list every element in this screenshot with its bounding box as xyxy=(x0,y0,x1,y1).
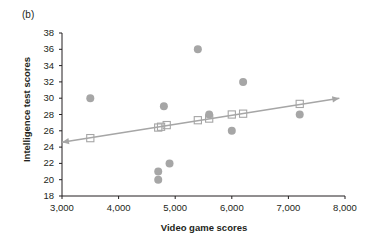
y-axis-tick-label: 36 xyxy=(32,43,54,54)
y-axis-tick-label: 18 xyxy=(32,190,54,201)
x-axis-tick-label: 3,000 xyxy=(42,202,82,213)
observed-points-group xyxy=(86,45,303,183)
x-axis-tick-label: 6,000 xyxy=(212,202,252,213)
x-axis-tick-label: 7,000 xyxy=(268,202,308,213)
trend-line-arrowhead xyxy=(332,96,339,102)
trend-line xyxy=(62,96,339,144)
scatter-plot-figure: (b) Intelligence test scores Video game … xyxy=(0,0,381,242)
y-axis-tick-label: 20 xyxy=(32,174,54,185)
x-axis-tick-label: 4,000 xyxy=(99,202,139,213)
y-axis-tick-label: 34 xyxy=(32,60,54,71)
data-point-observed xyxy=(166,159,174,167)
data-point-observed xyxy=(296,111,304,119)
data-point-observed xyxy=(228,127,236,135)
data-point-observed xyxy=(154,176,162,184)
y-axis-tick-label: 24 xyxy=(32,141,54,152)
data-point-observed xyxy=(86,94,94,102)
x-axis-tick-label: 5,000 xyxy=(155,202,195,213)
data-point-observed xyxy=(160,102,168,110)
data-point-observed xyxy=(154,168,162,176)
data-point-observed xyxy=(194,45,202,53)
x-axis-tick-label: 8,000 xyxy=(325,202,365,213)
data-point-observed xyxy=(239,78,247,86)
trend-line-arrowhead xyxy=(62,138,69,144)
y-axis-tick-label: 26 xyxy=(32,125,54,136)
y-axis-tick-label: 30 xyxy=(32,92,54,103)
y-axis-tick-label: 38 xyxy=(32,27,54,38)
y-axis-tick-label: 22 xyxy=(32,157,54,168)
y-axis-tick-label: 32 xyxy=(32,76,54,87)
y-axis-tick-label: 28 xyxy=(32,109,54,120)
